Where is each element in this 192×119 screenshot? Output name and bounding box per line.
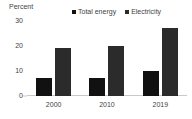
x-axis-tick-label: 2000 <box>46 101 62 109</box>
legend-label-electricity: Electricity <box>131 7 161 16</box>
bar-group: 2000 <box>27 21 80 96</box>
bar-total-energy-2019[interactable] <box>143 71 159 96</box>
bar-electricity-2019[interactable] <box>162 28 178 96</box>
bar-chart: Percent Total energy Electricity 0102030… <box>0 0 192 119</box>
y-axis-title: Percent <box>9 2 33 11</box>
bar-total-energy-2000[interactable] <box>36 78 52 96</box>
y-axis-tick-label: 20 <box>15 42 23 50</box>
bar-group: 2010 <box>80 21 133 96</box>
legend-label-total-energy: Total energy <box>78 7 116 16</box>
bar-electricity-2010[interactable] <box>108 46 124 96</box>
bar-total-energy-2010[interactable] <box>89 78 105 96</box>
legend-item-electricity[interactable]: Electricity <box>125 7 161 16</box>
chart-legend: Total energy Electricity <box>72 7 161 16</box>
y-axis-tick-label: 10 <box>15 67 23 75</box>
plot-area: 0102030200020102019 <box>27 21 187 96</box>
x-axis-tick-label: 2010 <box>99 101 115 109</box>
square-marker-icon <box>125 10 129 14</box>
bar-group: 2019 <box>134 21 187 96</box>
square-marker-icon <box>72 10 76 14</box>
y-axis-tick-label: 30 <box>15 17 23 25</box>
x-axis-tick-label: 2019 <box>153 101 169 109</box>
bar-electricity-2000[interactable] <box>55 48 71 96</box>
legend-item-total-energy[interactable]: Total energy <box>72 7 116 16</box>
